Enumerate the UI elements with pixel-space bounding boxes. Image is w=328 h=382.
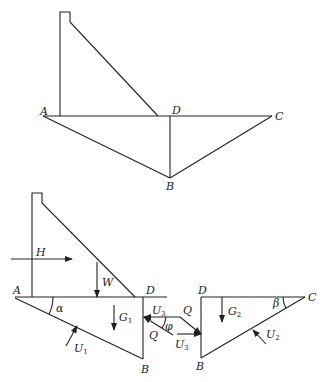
- label-Q-right: Q: [183, 304, 192, 317]
- label-U2: U2: [266, 328, 280, 342]
- label-U1: U1: [74, 342, 88, 356]
- bottom-label-B-right: B: [195, 360, 204, 373]
- top-line-BC: [170, 116, 272, 178]
- bottom-label-A: A: [12, 284, 21, 297]
- label-H: H: [35, 246, 46, 259]
- top-label-D: D: [171, 104, 181, 117]
- bottom-label-B-left: B: [140, 363, 149, 376]
- bottom-label-D-right: D: [197, 284, 207, 297]
- dam-stability-diagram: A D C B H W G1 U1 α A D B U3: [0, 0, 328, 382]
- angle-alpha-arc: [49, 297, 53, 314]
- bottom-label-D-left: D: [145, 284, 155, 297]
- top-dam-outline: [60, 12, 158, 116]
- label-alpha: α: [56, 302, 64, 315]
- label-Q-left: Q: [149, 329, 158, 342]
- bottom-label-C-right: C: [308, 291, 317, 304]
- top-label-C: C: [275, 110, 284, 123]
- top-line-AB: [43, 116, 170, 178]
- label-G1: G1: [119, 311, 132, 325]
- label-U3-right: U3: [175, 338, 189, 352]
- right-wedge-BC: [201, 297, 305, 358]
- label-phi: φ: [165, 320, 173, 333]
- top-label-B: B: [165, 180, 174, 193]
- top-figure: A D C B: [39, 12, 284, 193]
- angle-beta-arc: [283, 297, 286, 308]
- force-U2-arrow: [253, 330, 266, 344]
- label-beta: β: [272, 297, 279, 310]
- bottom-figure: H W G1 U1 α A D B U3 Q φ Q U3 G2 U2 β D: [11, 193, 317, 376]
- label-G2: G2: [228, 305, 241, 319]
- label-W: W: [102, 276, 115, 289]
- label-U3-left: U3: [152, 304, 166, 318]
- top-label-A: A: [39, 105, 48, 118]
- bottom-dam-outline: [32, 193, 135, 297]
- force-Q-right-arrow: [180, 317, 201, 334]
